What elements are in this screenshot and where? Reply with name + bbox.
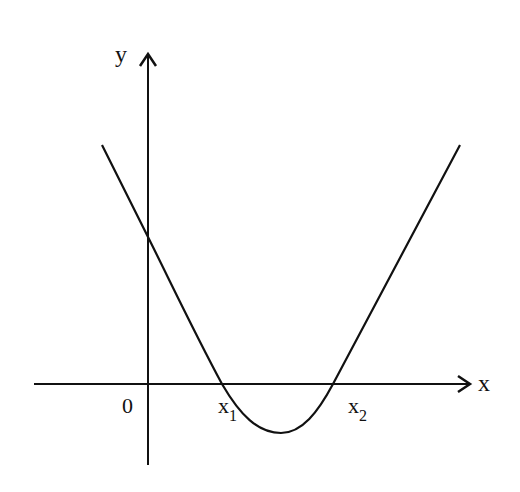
y-axis-label: y	[115, 41, 127, 67]
parabola-curve	[102, 145, 460, 433]
root-label-x2: x2	[348, 393, 367, 424]
parabola-diagram: y x 0 x1 x2	[0, 0, 520, 492]
origin-label: 0	[122, 393, 133, 418]
x-axis-label: x	[478, 370, 490, 396]
root-label-x1: x1	[218, 393, 237, 424]
